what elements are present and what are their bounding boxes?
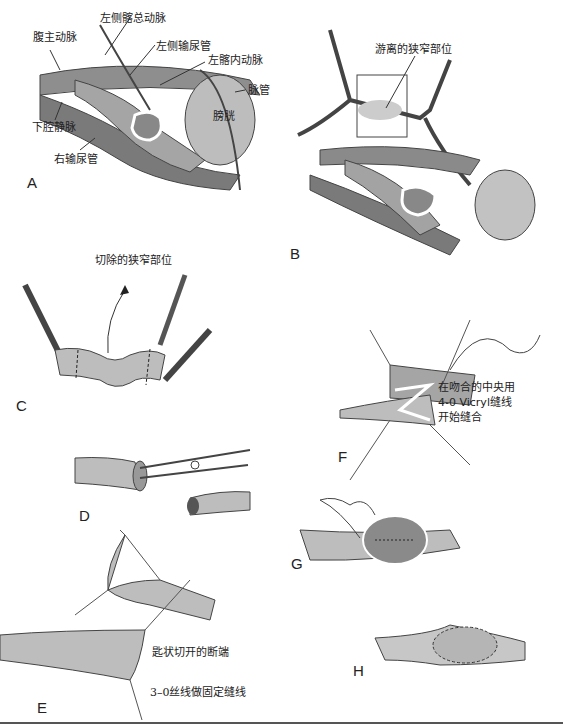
label-left-ureter: 左侧输尿管 <box>156 40 211 53</box>
panel-d-illustration <box>0 420 260 520</box>
panel-b: 游离的狭窄部位 B <box>290 0 563 270</box>
label-stay-suture: 3–0丝线做固定缝线 <box>150 686 247 699</box>
panel-a: 腹主动脉 左侧髂总动脉 左侧输尿管 左髂内动脉 脉管 膀胱 下腔静脉 右输尿管 … <box>0 0 290 220</box>
panel-letter-a: A <box>27 174 37 191</box>
panel-c-illustration <box>0 245 260 420</box>
label-left-common-iliac-artery: 左侧髂总动脉 <box>100 12 166 25</box>
panel-letter-h: H <box>353 662 364 679</box>
panel-h: H <box>280 620 563 700</box>
panel-g: G <box>280 490 563 590</box>
label-inferior-vena-cava: 下腔静脉 <box>32 121 76 134</box>
panel-e: 匙状切开的断端 3–0丝线做固定缝线 E <box>0 520 290 720</box>
panel-letter-f: F <box>338 448 347 465</box>
label-bladder: 膀胱 <box>213 110 235 123</box>
panel-letter-g: G <box>291 555 303 572</box>
panel-letter-e: E <box>37 699 47 716</box>
panel-letter-c: C <box>16 397 27 414</box>
label-f-line-3: 开始缝合 <box>438 411 482 424</box>
panel-f: 在吻合的中央用 4-0 Vicryl缝线 开始缝合 F <box>330 290 563 490</box>
panel-g-illustration <box>280 490 563 590</box>
label-f-line-1: 在吻合的中央用 <box>438 381 515 394</box>
panel-letter-b: B <box>290 245 300 262</box>
label-vessel: 脉管 <box>248 84 270 97</box>
panel-h-illustration <box>280 620 563 700</box>
label-excised-stricture: 切除的狭窄部位 <box>95 254 172 267</box>
label-abdominal-aorta: 腹主动脉 <box>33 31 77 44</box>
panel-d: D <box>0 420 260 520</box>
panel-c: 切除的狭窄部位 C <box>0 245 260 420</box>
label-spatulated-ends: 匙状切开的断端 <box>152 646 229 659</box>
label-right-ureter: 右输尿管 <box>54 153 98 166</box>
bottom-rule <box>0 722 563 724</box>
panel-b-illustration <box>290 0 563 270</box>
label-f-line-2: 4-0 Vicryl缝线 <box>438 396 512 409</box>
label-mobilized-stricture: 游离的狭窄部位 <box>375 43 452 56</box>
label-left-internal-iliac-artery: 左髂内动脉 <box>208 54 263 67</box>
